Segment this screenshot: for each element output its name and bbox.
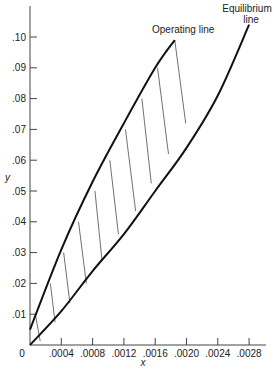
y-tick-label: .07: [12, 124, 26, 135]
x-tick-label: .0020: [174, 348, 199, 359]
equilibrium-line-label: Equilibrium: [222, 3, 271, 14]
y-tick-label: .08: [12, 93, 26, 104]
axes: [30, 6, 266, 345]
y-tick-label: .10: [12, 32, 26, 43]
equilibrium-line-label-2: line: [243, 14, 259, 25]
y-tick-label: .03: [12, 247, 26, 258]
tie-lines: [35, 40, 185, 341]
x-tick-label: .0016: [143, 348, 168, 359]
tie-line: [158, 68, 169, 154]
tie-line: [79, 222, 87, 284]
tie-line: [125, 129, 135, 211]
y-tick-label: .04: [12, 216, 26, 227]
tie-line: [64, 253, 70, 304]
x-tick-label: .0004: [49, 348, 74, 359]
y-ticks: .01.02.03.04.05.06.07.08.09.10: [12, 32, 37, 320]
y-tick-label: .09: [12, 62, 26, 73]
operating-line: [30, 40, 175, 330]
y-tick-label: .01: [12, 309, 26, 320]
x-tick-label: .0012: [111, 348, 136, 359]
y-tick-label: .02: [12, 278, 26, 289]
tie-line: [50, 283, 55, 322]
x-tick-label: .0024: [205, 348, 230, 359]
x-tick-label: .0008: [80, 348, 105, 359]
y-axis-label: y: [4, 172, 11, 183]
x-tick-label: 0: [19, 348, 25, 359]
tie-line: [175, 40, 186, 123]
x-tick-label: .0028: [237, 348, 262, 359]
tie-line: [110, 160, 119, 234]
equilibrium-line: [30, 25, 249, 345]
chart-canvas: .01.02.03.04.05.06.07.08.09.10 0.0004.00…: [0, 0, 274, 369]
tie-line: [142, 99, 151, 184]
tie-line: [95, 191, 102, 260]
y-tick-label: .05: [12, 186, 26, 197]
operating-line-label: Operating line: [152, 24, 215, 35]
x-ticks: 0.0004.0008.0012.0016.0020.0024.0028: [19, 338, 262, 359]
y-tick-label: .06: [12, 155, 26, 166]
x-axis-label: x: [140, 357, 147, 368]
